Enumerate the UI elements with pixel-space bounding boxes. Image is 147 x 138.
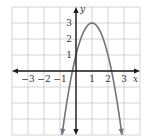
x-axis-arrow-left-icon	[12, 68, 18, 73]
y-tick-label: 3	[66, 18, 72, 28]
x-tick-label: −3	[21, 74, 35, 84]
x-tick-label: −1	[53, 74, 66, 84]
y-axis-arrow-down-icon	[73, 129, 78, 135]
x-tick-label: 1	[89, 74, 95, 84]
x-axis-label: x	[133, 74, 138, 84]
tick-labels: −3−2−1123123	[21, 18, 127, 84]
axes	[12, 7, 140, 135]
x-tick-label: −2	[37, 74, 50, 84]
graph: −3−2−1123123 x y	[0, 0, 147, 138]
x-tick-label: 2	[105, 74, 111, 84]
x-axis-arrow-right-icon	[134, 68, 140, 73]
y-axis-arrow-up-icon	[73, 7, 78, 13]
y-tick-label: 1	[66, 50, 72, 60]
y-axis-label: y	[79, 4, 86, 14]
y-tick-label: 2	[66, 34, 72, 44]
x-tick-label: 3	[121, 74, 127, 84]
